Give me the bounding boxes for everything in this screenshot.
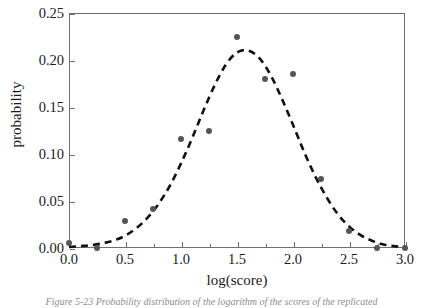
x-axis-tick-label: 0.5 <box>116 252 134 267</box>
data-point <box>346 228 352 234</box>
y-axis-tick <box>70 155 75 156</box>
x-axis-tick <box>238 242 239 247</box>
x-axis-tick-labels: 0.00.51.01.52.02.53.0 <box>69 252 405 272</box>
data-point <box>318 176 324 182</box>
x-axis-minor-tick <box>266 244 267 247</box>
y-axis-tick-label: 0.05 <box>39 194 64 209</box>
y-axis-tick <box>70 108 75 109</box>
x-axis-minor-tick <box>154 244 155 247</box>
x-axis-tick-label: 1.5 <box>228 252 246 267</box>
data-point <box>290 71 296 77</box>
x-axis-tick-label: 2.0 <box>284 252 302 267</box>
x-axis-tick-label: 2.5 <box>340 252 358 267</box>
x-axis-tick <box>350 242 351 247</box>
data-point <box>234 34 240 40</box>
x-axis-tick-label: 0.0 <box>60 252 78 267</box>
data-point <box>374 245 380 251</box>
data-point <box>262 76 268 82</box>
x-axis-tick <box>294 242 295 247</box>
data-point <box>94 245 100 251</box>
figure-container: 0.000.050.100.150.200.25 0.00.51.01.52.0… <box>0 0 423 308</box>
data-point <box>206 128 212 134</box>
y-axis-tick-label: 0.10 <box>39 147 64 162</box>
y-axis-tick-label: 0.15 <box>39 100 64 115</box>
y-axis-tick <box>70 14 75 15</box>
data-point <box>178 136 184 142</box>
x-axis-tick-label: 3.0 <box>396 252 414 267</box>
data-point <box>122 218 128 224</box>
plot-area <box>69 13 405 248</box>
data-point <box>402 245 408 251</box>
x-axis-minor-tick <box>210 244 211 247</box>
figure-caption: Figure 5-23 Probability distribution of … <box>0 296 423 308</box>
y-axis-tick <box>70 61 75 62</box>
data-point <box>150 206 156 212</box>
y-axis-title: probability <box>8 55 25 175</box>
y-axis-tick-label: 0.25 <box>39 6 64 21</box>
x-axis-title: log(score) <box>69 272 405 289</box>
x-axis-tick <box>126 242 127 247</box>
y-axis-tick <box>70 202 75 203</box>
y-axis-tick-label: 0.20 <box>39 53 64 68</box>
x-axis-tick <box>182 242 183 247</box>
x-axis-minor-tick <box>322 244 323 247</box>
x-axis-tick-label: 1.0 <box>172 252 190 267</box>
data-point <box>66 240 72 246</box>
y-axis-tick <box>70 249 75 250</box>
